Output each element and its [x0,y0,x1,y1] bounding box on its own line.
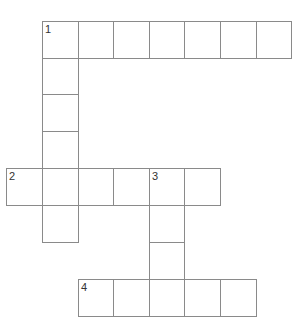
crossword-cell[interactable] [42,58,79,95]
crossword-cell[interactable] [113,21,150,59]
crossword-cell[interactable] [42,131,79,169]
crossword-cell[interactable] [149,279,185,317]
crossword-cell[interactable]: 2 [6,168,43,206]
crossword-cell[interactable] [184,168,221,206]
crossword-cell[interactable] [78,168,114,206]
crossword-cell[interactable]: 1 [42,21,79,59]
clue-number: 3 [152,170,158,182]
crossword-cell[interactable]: 3 [149,168,185,206]
crossword-cell[interactable] [149,205,185,243]
crossword-cell[interactable] [113,168,150,206]
crossword-cell[interactable] [220,21,257,59]
clue-number: 1 [45,23,51,35]
clue-number: 4 [81,281,87,293]
crossword-cell[interactable] [113,279,150,317]
crossword-cell[interactable] [184,21,221,59]
crossword-cell[interactable] [78,21,114,59]
crossword-cell[interactable] [149,21,185,59]
crossword-cell[interactable] [220,279,257,317]
crossword-cell[interactable] [184,279,221,317]
crossword-cell[interactable] [149,242,185,280]
crossword-cell[interactable] [42,94,79,132]
crossword-cell[interactable] [42,205,79,243]
crossword-cell[interactable] [256,21,292,59]
clue-number: 2 [9,170,15,182]
crossword-cell[interactable]: 4 [78,279,114,317]
crossword-cell[interactable] [42,168,79,206]
